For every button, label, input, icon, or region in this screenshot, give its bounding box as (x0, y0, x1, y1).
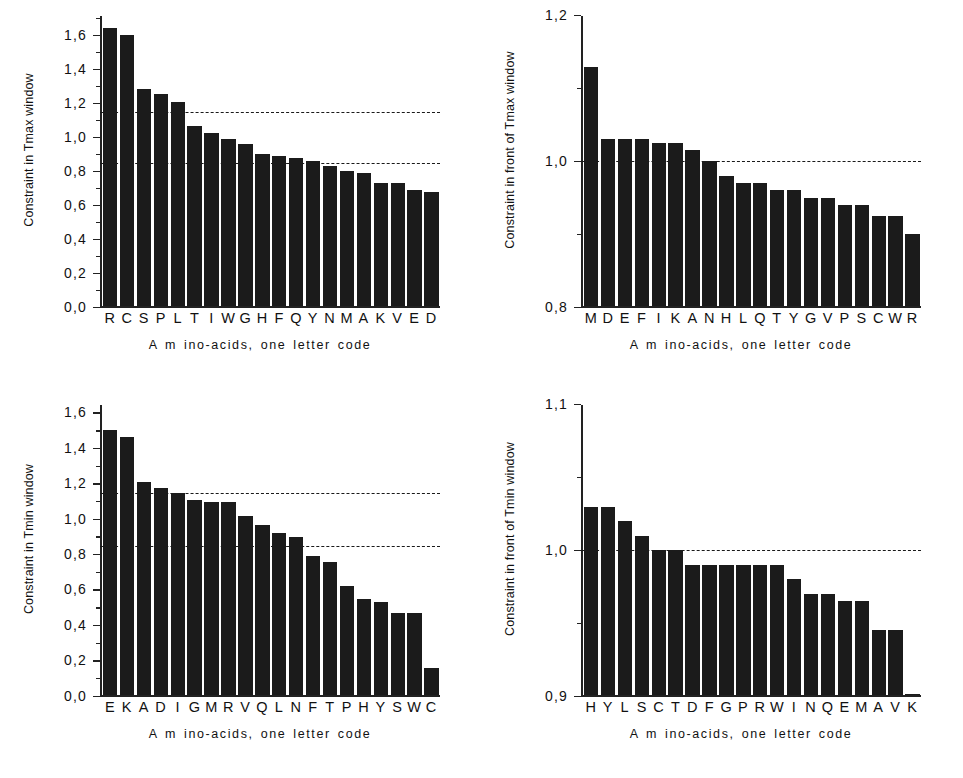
bar-cell (186, 405, 203, 695)
bar-cell (169, 405, 186, 695)
bar (719, 176, 733, 307)
x-tick-label: C (423, 699, 440, 715)
bar (407, 190, 421, 307)
y-tick: 1,2 (574, 15, 581, 16)
bar-cell (203, 16, 220, 306)
bar-cell (406, 16, 423, 306)
bar (204, 502, 218, 696)
plot-area: 0,91,01,1 (581, 405, 921, 697)
bar (821, 198, 835, 307)
y-tick-minor (96, 188, 101, 189)
bar (221, 139, 235, 306)
bar-cell (600, 16, 617, 306)
bar-cell (152, 405, 169, 695)
bar (905, 234, 919, 307)
x-axis-title: A m ino-acids, one letter code (60, 727, 460, 741)
y-tick-label: 1,1 (545, 396, 568, 412)
x-axis-tick-labels: HYLSCTDFGPRWINQEMAVK (583, 699, 921, 715)
bar (652, 143, 666, 306)
y-tick-minor (96, 466, 101, 467)
bar-cell (186, 16, 203, 306)
x-tick-label: E (616, 310, 633, 326)
bar (770, 190, 784, 306)
bar-cell (735, 16, 752, 306)
x-tick-label: R (752, 699, 769, 715)
bar-cell (836, 405, 853, 695)
bar-cell (650, 405, 667, 695)
y-tick-minor (96, 678, 101, 679)
bar (272, 533, 286, 695)
bar (424, 192, 438, 307)
y-tick-label: 0,8 (545, 299, 568, 315)
x-tick-label: Q (752, 310, 769, 326)
y-axis-title: Constraint in front of Tmin window (503, 389, 525, 689)
bar-cell (735, 405, 752, 695)
bar (736, 565, 750, 696)
x-tick-label: D (423, 310, 440, 326)
bar (289, 537, 303, 695)
bar-cell (667, 405, 684, 695)
y-tick-minor (96, 256, 101, 257)
x-tick-label: I (785, 699, 802, 715)
bar (601, 507, 615, 696)
bar (855, 601, 869, 695)
bar-cell (870, 405, 887, 695)
bar-cell (288, 405, 305, 695)
bar (340, 586, 354, 695)
bar (120, 35, 134, 307)
y-tick: 0,4 (93, 625, 100, 626)
x-tick-label: K (372, 310, 389, 326)
y-tick-minor (96, 86, 101, 87)
x-axis-title: A m ino-acids, one letter code (541, 338, 941, 352)
x-tick-label: E (836, 699, 853, 715)
bar (187, 126, 201, 307)
bar (103, 430, 117, 696)
x-tick-label: V (389, 310, 406, 326)
x-tick-label: R (904, 310, 921, 326)
bar-cell (583, 16, 600, 306)
bar-series (102, 16, 440, 306)
bar (635, 139, 649, 306)
x-tick-label: P (338, 699, 355, 715)
bar (668, 550, 682, 695)
y-tick-label: 1,0 (545, 153, 568, 169)
x-tick-label: S (389, 699, 406, 715)
bar (306, 161, 320, 306)
y-tick: 0,8 (574, 307, 581, 308)
x-tick-label: H (583, 699, 600, 715)
x-tick-label: M (338, 310, 355, 326)
bar (888, 630, 902, 695)
bar-series (583, 16, 921, 306)
bar (804, 594, 818, 696)
y-tick-label: 1,0 (64, 511, 87, 527)
x-tick-label: A (684, 310, 701, 326)
amino-acid-constraint-figure: Constraint in Tmax window 0,00,20,40,60,… (0, 0, 963, 778)
y-tick: 0,8 (93, 554, 100, 555)
y-tick: 1,2 (93, 483, 100, 484)
bar (357, 173, 371, 306)
y-tick-label: 1,6 (64, 27, 87, 43)
y-tick-label: 0,4 (64, 231, 87, 247)
bar-cell (339, 16, 356, 306)
y-tick-minor (577, 234, 582, 235)
bar-cell (684, 405, 701, 695)
x-tick-label: V (887, 699, 904, 715)
x-tick-label: M (583, 310, 600, 326)
bar-cell (786, 405, 803, 695)
bar-cell (119, 16, 136, 306)
bar-series (583, 405, 921, 695)
x-axis-tick-labels: RCSPLTIWGHFQYNMAKVED (102, 310, 440, 326)
y-axis-title: Constraint in Tmax window (22, 0, 44, 300)
y-tick: 1,2 (93, 103, 100, 104)
bar-cell (633, 405, 650, 695)
x-tick-label: F (633, 310, 650, 326)
bar (787, 579, 801, 695)
bar (821, 594, 835, 696)
bar (770, 565, 784, 696)
bar-cell (820, 405, 837, 695)
y-tick: 1,6 (93, 412, 100, 413)
y-tick-minor (577, 477, 582, 478)
x-tick-label: T (769, 310, 786, 326)
bar-cell (836, 16, 853, 306)
bar-cell (701, 405, 718, 695)
